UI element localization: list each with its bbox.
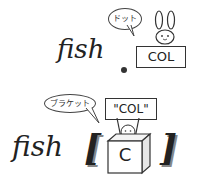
bottom-sign-label: "COL" bbox=[113, 102, 149, 116]
top-fish-text: fish bbox=[57, 34, 104, 64]
dot-bubble-label: ドット bbox=[113, 14, 137, 23]
dot-bubble-tail-icon bbox=[125, 25, 135, 37]
box-label: C bbox=[110, 144, 140, 165]
dot-operator-icon bbox=[121, 67, 127, 73]
top-sign-label: COL bbox=[148, 49, 175, 64]
rabbit-icon bbox=[150, 10, 180, 50]
top-col-sign: COL bbox=[136, 46, 186, 68]
open-bracket: [ bbox=[84, 126, 101, 168]
bracket-bubble-tail-icon bbox=[86, 108, 100, 124]
bottom-fish-text: fish bbox=[12, 130, 63, 163]
bottom-col-sign: "COL" bbox=[105, 98, 157, 120]
bracket-bubble-label: ブラケット bbox=[50, 99, 90, 108]
close-bracket: ] bbox=[160, 126, 177, 168]
